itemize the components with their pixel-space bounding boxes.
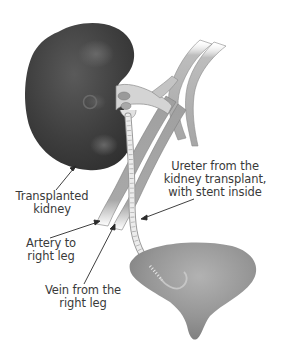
label-ureter-line3: with stent inside	[155, 186, 275, 199]
bladder	[130, 242, 257, 339]
kidney-leader	[56, 168, 74, 190]
label-artery-to-right-leg: Artery to right leg	[20, 237, 82, 263]
label-artery-line2: right leg	[20, 250, 82, 263]
upper-vessels	[168, 40, 226, 146]
label-ureter-with-stent: Ureter from the kidney transplant, with …	[155, 160, 275, 199]
ureter-leader	[144, 199, 194, 218]
label-vein-from-right-leg: Vein from the right leg	[38, 284, 128, 310]
label-transplanted-kidney: Transplanted kidney	[12, 190, 92, 216]
vein-leader	[84, 226, 114, 284]
label-kidney-line2: kidney	[12, 203, 92, 216]
label-vein-line2: right leg	[38, 297, 128, 310]
